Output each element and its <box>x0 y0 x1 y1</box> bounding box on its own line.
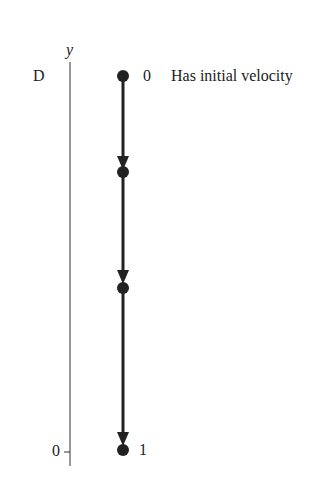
point-label-end: 1 <box>139 442 147 458</box>
y-axis-label: y <box>66 42 73 58</box>
dot-2 <box>117 282 129 294</box>
annotation-initial-velocity: Has initial velocity <box>171 68 293 84</box>
motion-arrows <box>117 76 129 446</box>
dot-3 <box>117 444 129 456</box>
top-label-d: D <box>33 68 45 84</box>
dot-0 <box>117 70 129 82</box>
zero-label: 0 <box>52 443 60 459</box>
point-label-start: 0 <box>143 68 151 84</box>
dot-1 <box>117 166 129 178</box>
